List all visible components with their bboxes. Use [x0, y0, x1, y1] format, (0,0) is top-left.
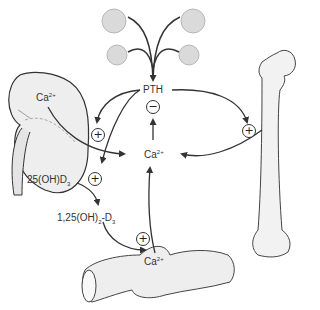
vitamin-d-125-label: 1,25(OH)2-D3 [57, 213, 115, 225]
gland-arrows [128, 17, 180, 80]
central-calcium-label: Ca2+ [144, 149, 164, 160]
pth-label: PTH [143, 85, 163, 95]
negative-feedback-sign: − [146, 100, 160, 114]
vitamin-d-25-label: 25(OH)D3 [27, 175, 70, 187]
intestine [82, 246, 234, 302]
intestine-plus-sign: + [136, 232, 150, 246]
kidney-plus-sign: + [91, 128, 105, 142]
femur-bone [253, 50, 296, 257]
parathyroid-glands [102, 9, 205, 65]
intestine-calcium-label: Ca2+ [144, 256, 164, 267]
kidney-calcium-label: Ca2+ [36, 92, 56, 103]
bone-plus-sign: + [242, 124, 256, 138]
vitamin-d-plus-sign: + [88, 172, 102, 186]
